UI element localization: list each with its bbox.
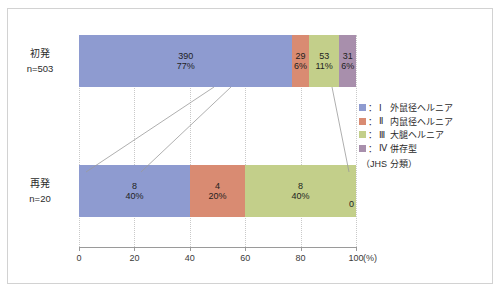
legend-numeral: Ⅱ (379, 116, 390, 126)
x-tick-0 (79, 247, 80, 251)
bar-segment: 840% (79, 165, 190, 217)
zero-value-label: 0 (349, 199, 354, 209)
legend-separator: ： (368, 115, 377, 128)
bar-segment: 316% (339, 35, 356, 87)
bar-row-shohatsu: 39077%296%5311%316% (79, 35, 356, 87)
segment-count-label: 390 (178, 51, 193, 61)
x-tick-label-0: 0 (64, 253, 94, 263)
row-label-count: n=20 (9, 192, 71, 206)
row-label-saihatsu: 再発 n=20 (9, 177, 71, 205)
chart-frame: 39077%296%5311%316% 840%420%840% 初発 n=50… (7, 8, 493, 284)
row-label-name: 初発 (9, 47, 71, 62)
row-label-name: 再発 (9, 177, 71, 192)
segment-count-label: 53 (319, 51, 329, 61)
legend-numeral: Ⅳ (379, 143, 390, 153)
legend-label: 大腿ヘルニア (390, 128, 444, 141)
legend-label: 外鼠径ヘルニア (390, 101, 453, 114)
legend-item-3[interactable]: ：Ⅲ大腿ヘルニア (359, 128, 484, 142)
segment-percent-label: 11% (315, 61, 332, 71)
x-tick-80 (301, 247, 302, 251)
row-label-count: n=503 (9, 62, 71, 76)
plot-area: 39077%296%5311%316% 840%420%840% (79, 35, 356, 247)
segment-percent-label: 6% (341, 61, 354, 71)
legend: ：Ⅰ外鼠径ヘルニア：Ⅱ内鼠径ヘルニア：Ⅲ大腿ヘルニア：Ⅳ併存型 （JHS 分類） (359, 101, 484, 170)
bar-segment: 5311% (309, 35, 339, 87)
legend-swatch-icon (359, 118, 366, 125)
x-tick-label-40: 40 (175, 253, 205, 263)
legend-numeral: Ⅲ (379, 130, 390, 140)
segment-percent-label: 77% (177, 61, 195, 71)
x-tick-40 (190, 247, 191, 251)
legend-swatch-icon (359, 145, 366, 152)
legend-item-1[interactable]: ：Ⅰ外鼠径ヘルニア (359, 101, 484, 115)
segment-percent-label: 40% (292, 191, 310, 201)
gridline-100 (356, 35, 358, 247)
legend-item-4[interactable]: ：Ⅳ併存型 (359, 142, 484, 156)
bar-row-saihatsu: 840%420%840% (79, 165, 356, 217)
x-axis-line (79, 247, 357, 248)
x-tick-label-20: 20 (119, 253, 149, 263)
legend-items: ：Ⅰ外鼠径ヘルニア：Ⅱ内鼠径ヘルニア：Ⅲ大腿ヘルニア：Ⅳ併存型 (359, 101, 484, 155)
bar-segment: 420% (190, 165, 245, 217)
segment-count-label: 29 (296, 51, 306, 61)
segment-count-label: 4 (215, 181, 220, 191)
x-tick-label-80: 80 (286, 253, 316, 263)
segment-percent-label: 20% (208, 191, 226, 201)
x-tick-20 (134, 247, 135, 251)
segment-count-label: 8 (298, 181, 303, 191)
segment-count-label: 8 (132, 181, 137, 191)
x-axis-unit-label: (%) (363, 253, 377, 263)
bar-segment: 39077% (79, 35, 292, 87)
segment-percent-label: 6% (294, 61, 307, 71)
legend-label: 内鼠径ヘルニア (390, 115, 453, 128)
x-tick-60 (245, 247, 246, 251)
legend-separator: ： (368, 142, 377, 155)
legend-swatch-icon (359, 131, 366, 138)
legend-label: 併存型 (390, 142, 417, 155)
segment-percent-label: 40% (125, 191, 143, 201)
legend-numeral: Ⅰ (379, 103, 390, 113)
legend-separator: ： (368, 101, 377, 114)
legend-separator: ： (368, 128, 377, 141)
x-tick-label-60: 60 (230, 253, 260, 263)
x-tick-100 (356, 247, 357, 251)
legend-swatch-icon (359, 104, 366, 111)
bar-segment: 840% (245, 165, 356, 217)
legend-item-2[interactable]: ：Ⅱ内鼠径ヘルニア (359, 115, 484, 129)
segment-count-label: 31 (343, 51, 353, 61)
bar-segment: 296% (292, 35, 309, 87)
row-label-shohatsu: 初発 n=503 (9, 47, 71, 75)
legend-note: （JHS 分類） (359, 157, 484, 170)
